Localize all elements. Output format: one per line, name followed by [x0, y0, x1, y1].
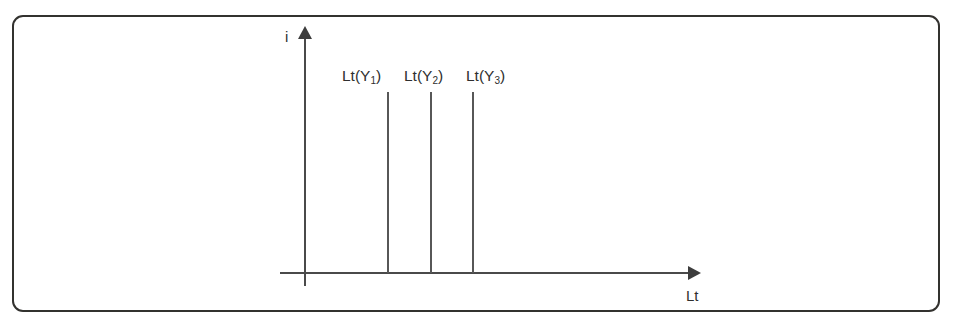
impulse-label-1-subscript: 1: [370, 75, 376, 86]
impulse-line-2: [430, 92, 432, 273]
impulse-label-1: Lt(Y1): [342, 68, 381, 84]
impulse-label-3: Lt(Y3): [466, 68, 505, 84]
impulse-label-3-subscript: 3: [494, 75, 500, 86]
impulse-label-2-base: Lt(Y: [404, 67, 432, 84]
impulse-label-2: Lt(Y2): [404, 68, 443, 84]
impulse-label-2-close: ): [438, 67, 443, 84]
y-axis-arrow-icon: [298, 26, 312, 39]
figure-screenshot: i Lt Lt(Y1) Lt(Y2) Lt(Y3): [0, 0, 956, 321]
impulse-line-1: [387, 92, 389, 273]
impulse-label-1-base: Lt(Y: [342, 67, 370, 84]
y-axis-label: i: [285, 29, 288, 44]
plot-area: i Lt Lt(Y1) Lt(Y2) Lt(Y3): [0, 0, 956, 321]
x-axis-arrow-icon: [688, 266, 701, 280]
impulse-label-3-base: Lt(Y: [466, 67, 494, 84]
impulse-label-2-subscript: 2: [432, 75, 438, 86]
impulse-line-3: [472, 92, 474, 273]
y-axis-line: [304, 36, 306, 286]
impulse-label-3-close: ): [500, 67, 505, 84]
impulse-label-1-close: ): [376, 67, 381, 84]
x-axis-label: Lt: [686, 288, 699, 303]
x-axis-line: [280, 272, 694, 274]
